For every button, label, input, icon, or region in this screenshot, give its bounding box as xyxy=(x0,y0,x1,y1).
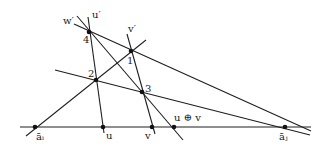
point-label-2: 2 xyxy=(88,68,94,79)
point-u xyxy=(101,125,106,130)
point-label-u: u xyxy=(106,130,113,141)
point-v xyxy=(150,125,155,130)
points-layer xyxy=(33,30,288,130)
point-label-a-j: āⱼ xyxy=(279,131,288,142)
line-label-v-prime: v′ xyxy=(127,23,137,34)
point-label-3: 3 xyxy=(145,83,151,94)
point-label-4: 4 xyxy=(83,34,89,45)
point-p1 xyxy=(129,49,134,54)
labels-layer: w′ u′ v′ 4 1 2 3 āᵢ u v u ⊕ v āⱼ xyxy=(36,9,288,142)
point-label-v: v xyxy=(144,130,151,141)
line-2-3 xyxy=(55,70,310,135)
line-label-w-prime: w′ xyxy=(63,15,75,26)
point-label-u-plus-v: u ⊕ v xyxy=(174,112,201,123)
point-p3 xyxy=(140,90,145,95)
line-label-u-prime: u′ xyxy=(92,9,101,20)
projective-diagram: w′ u′ v′ 4 1 2 3 āᵢ u v u ⊕ v āⱼ xyxy=(0,0,329,152)
lines-layer xyxy=(20,16,311,140)
point-a-j xyxy=(283,125,288,130)
point-p2 xyxy=(94,78,99,83)
point-label-a-i: āᵢ xyxy=(36,131,44,142)
point-uv-sum xyxy=(172,125,177,130)
point-label-1: 1 xyxy=(127,55,133,66)
point-a-i xyxy=(33,125,38,130)
